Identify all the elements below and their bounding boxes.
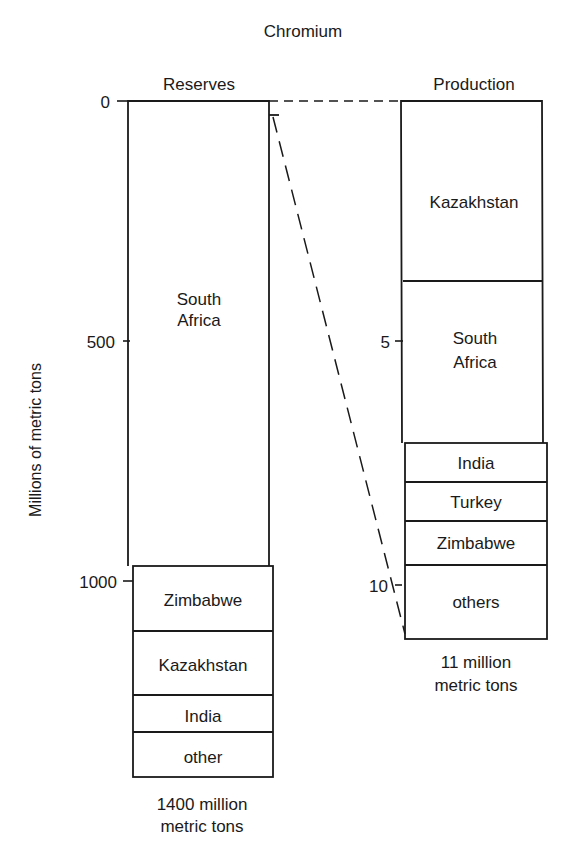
- production-turkey-label: Turkey: [450, 493, 502, 512]
- chart-title: Chromium: [264, 22, 342, 41]
- production-india-label: India: [458, 454, 495, 473]
- tick-10: 10: [369, 577, 388, 596]
- reserves-india-label: India: [185, 707, 222, 726]
- production-total-line2: metric tons: [434, 676, 517, 695]
- reserves-axis: 0 500 1000: [79, 93, 133, 592]
- reserves-kazakhstan-label: Kazakhstan: [159, 656, 248, 675]
- production-others-label: others: [452, 593, 499, 612]
- scale-connector-lines: [269, 101, 405, 634]
- tick-1000: 1000: [79, 573, 117, 592]
- production-south-africa-label: South: [453, 329, 497, 348]
- reserves-total-line2: metric tons: [160, 817, 243, 836]
- production-segment-labels: Kazakhstan South Africa India Turkey Zim…: [430, 193, 519, 612]
- production-total-line1: 11 million: [441, 653, 512, 672]
- production-kazakhstan-label: Kazakhstan: [430, 193, 519, 212]
- tick-500: 500: [87, 333, 115, 352]
- reserves-south-africa-label: South: [177, 290, 221, 309]
- reserves-zimbabwe-label: Zimbabwe: [164, 591, 242, 610]
- reserves-total-line1: 1400 million: [157, 795, 248, 814]
- production-south-africa-label-2: Africa: [453, 353, 497, 372]
- y-axis-label: Millions of metric tons: [27, 363, 44, 517]
- tick-5: 5: [381, 333, 390, 352]
- production-header: Production: [433, 75, 514, 94]
- tick-0: 0: [101, 93, 110, 112]
- reserves-header: Reserves: [163, 75, 235, 94]
- production-axis: 5 10: [369, 333, 403, 596]
- reserves-column: [128, 101, 279, 777]
- chromium-chart: Chromium Reserves Production Millions of…: [0, 0, 575, 854]
- reserves-south-africa-label-2: Africa: [177, 311, 221, 330]
- reserves-other-label: other: [184, 748, 223, 767]
- production-zimbabwe-label: Zimbabwe: [437, 534, 515, 553]
